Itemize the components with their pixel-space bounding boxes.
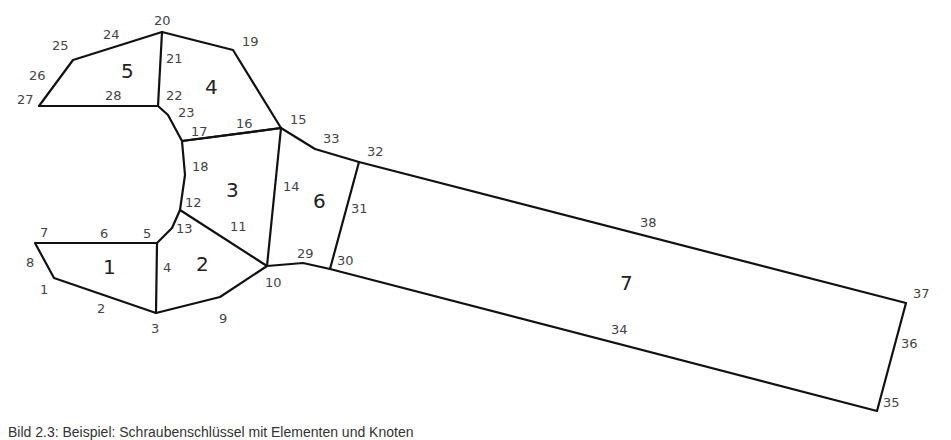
node-label-14: 14: [283, 179, 300, 194]
node-label-37: 37: [913, 286, 930, 301]
node-label-20: 20: [154, 13, 171, 28]
node-label-18: 18: [192, 159, 209, 174]
node-label-13: 13: [176, 221, 193, 236]
node-label-25: 25: [52, 38, 69, 53]
node-label-16: 16: [236, 116, 253, 131]
node-label-35: 35: [883, 395, 900, 410]
node-label-6: 6: [100, 226, 108, 241]
figure-caption: Bild 2.3: Beispiel: Schraubenschlüssel m…: [8, 424, 413, 440]
outline-element-1: [35, 243, 157, 313]
node-label-29: 29: [297, 246, 314, 261]
node-label-3: 3: [151, 321, 159, 336]
node-label-17: 17: [191, 124, 208, 139]
node-label-34: 34: [611, 322, 628, 337]
node-label-28: 28: [105, 88, 122, 103]
node-label-11: 11: [230, 219, 247, 234]
node-label-22: 22: [166, 88, 183, 103]
node-label-10: 10: [265, 275, 282, 290]
node-label-4: 4: [163, 260, 171, 275]
node-label-27: 27: [17, 92, 34, 107]
node-label-24: 24: [103, 27, 120, 42]
node-label-19: 19: [242, 34, 259, 49]
node-label-30: 30: [337, 253, 354, 268]
node-label-2: 2: [97, 301, 105, 316]
node-label-26: 26: [29, 68, 46, 83]
node-label-21: 21: [166, 51, 183, 66]
node-label-7: 7: [40, 225, 48, 240]
node-label-12: 12: [185, 195, 202, 210]
element-label-6: 6: [313, 189, 326, 213]
element-label-4: 4: [205, 75, 218, 99]
node-labels: 1234567891011121314151617181920212223242…: [17, 13, 930, 410]
element-label-7: 7: [620, 271, 633, 295]
node-label-8: 8: [26, 255, 34, 270]
node-label-32: 32: [367, 144, 384, 159]
node-label-9: 9: [219, 311, 227, 326]
outline-element-4: [158, 32, 281, 141]
element-label-2: 2: [196, 252, 209, 276]
node-label-36: 36: [901, 336, 918, 351]
node-label-33: 33: [323, 131, 340, 146]
outline-element-2: [156, 210, 267, 313]
node-label-1: 1: [40, 282, 48, 297]
node-label-15: 15: [290, 112, 307, 127]
node-label-5: 5: [143, 226, 151, 241]
node-label-38: 38: [640, 215, 657, 230]
element-label-1: 1: [103, 255, 116, 279]
node-label-31: 31: [351, 201, 368, 216]
outline-element-7: [330, 162, 906, 411]
element-label-3: 3: [226, 178, 239, 202]
element-label-5: 5: [121, 59, 134, 83]
node-label-23: 23: [178, 105, 195, 120]
